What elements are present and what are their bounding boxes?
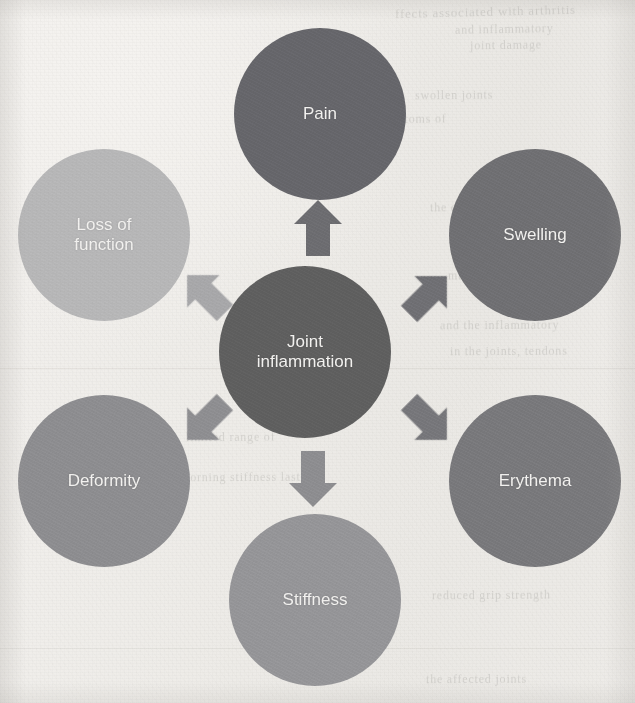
node-erythema[interactable]: Erythema xyxy=(449,395,621,567)
node-loss-of-function-label-line-2: function xyxy=(74,235,134,254)
arrow-to-erythema-icon xyxy=(393,386,464,457)
diagram-page: ffects associated with arthritis and inf… xyxy=(0,0,635,703)
node-swelling[interactable]: Swelling xyxy=(449,149,621,321)
node-stiffness-label: Stiffness xyxy=(283,590,348,610)
node-joint-inflammation-label: Joint inflammation xyxy=(257,332,353,372)
node-swelling-label: Swelling xyxy=(503,225,566,245)
arrow-to-swelling-icon xyxy=(393,260,464,331)
node-erythema-label: Erythema xyxy=(499,471,572,491)
node-loss-of-function[interactable]: Loss of function xyxy=(18,149,190,321)
node-deformity[interactable]: Deformity xyxy=(18,395,190,567)
node-joint-inflammation[interactable]: Joint inflammation xyxy=(219,266,391,438)
node-deformity-label: Deformity xyxy=(68,471,141,491)
node-joint-inflammation-label-line-2: inflammation xyxy=(257,352,353,371)
node-joint-inflammation-label-line-1: Joint xyxy=(287,332,323,351)
arrow-to-pain-icon xyxy=(294,200,342,256)
node-loss-of-function-label-line-1: Loss of xyxy=(77,215,132,234)
radial-diagram: Pain Swelling Erythema Stiffness Deformi… xyxy=(0,0,635,703)
arrow-to-stiffness-icon xyxy=(289,451,337,507)
node-pain[interactable]: Pain xyxy=(234,28,406,200)
node-loss-of-function-label: Loss of function xyxy=(74,215,134,255)
node-stiffness[interactable]: Stiffness xyxy=(229,514,401,686)
node-pain-label: Pain xyxy=(303,104,337,124)
